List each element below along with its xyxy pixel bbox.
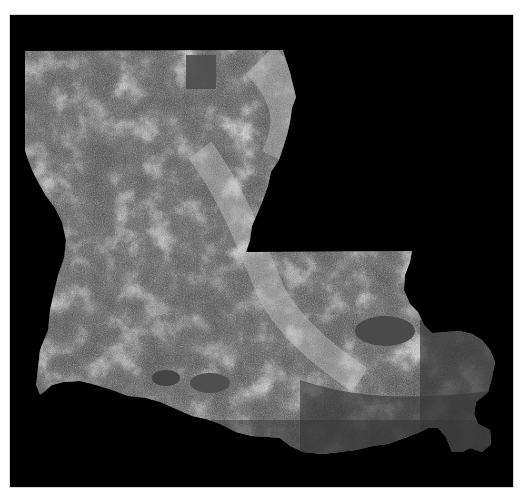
land-area [0,0,526,498]
lake-w [152,370,180,386]
reservoir [186,55,216,89]
lake-sw [190,373,230,393]
map-panel [10,15,513,487]
lake-pontchartrain [355,316,415,346]
louisiana-map [0,0,526,498]
